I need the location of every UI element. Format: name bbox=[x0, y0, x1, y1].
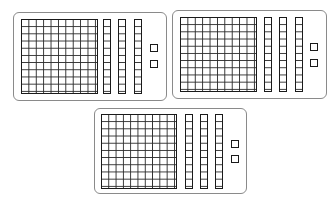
unit-cube bbox=[150, 60, 158, 68]
hundred-flat bbox=[101, 114, 177, 189]
hundred-flat bbox=[21, 19, 98, 94]
ten-rod bbox=[295, 17, 303, 92]
ten-rod bbox=[134, 19, 142, 94]
ten-rod bbox=[103, 19, 111, 94]
ten-rod bbox=[264, 17, 272, 92]
unit-cube bbox=[310, 59, 318, 67]
unit-cube bbox=[231, 155, 239, 163]
ten-rod bbox=[279, 17, 287, 92]
unit-cube bbox=[231, 140, 239, 148]
hundred-flat bbox=[180, 17, 257, 92]
ten-rod bbox=[185, 114, 193, 189]
ten-rod bbox=[118, 19, 126, 94]
ten-rod bbox=[215, 114, 223, 189]
unit-cube bbox=[310, 43, 318, 51]
ten-rod bbox=[200, 114, 208, 189]
unit-cube bbox=[150, 44, 158, 52]
